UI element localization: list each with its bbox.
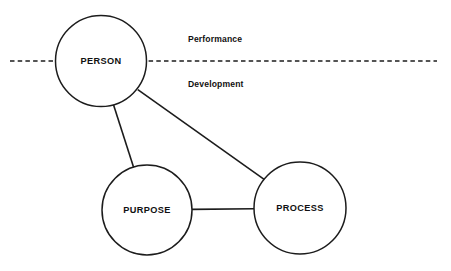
node-purpose-label: PURPOSE xyxy=(123,205,170,215)
zone-label-development: Development xyxy=(188,79,244,89)
diagram-canvas: PERSON PURPOSE PROCESS Performance Devel… xyxy=(0,0,451,271)
diagram-svg: PERSON PURPOSE PROCESS Performance Devel… xyxy=(0,0,451,271)
edge-person-purpose xyxy=(114,105,134,167)
node-process-label: PROCESS xyxy=(276,203,323,213)
edge-purpose-process xyxy=(192,209,254,210)
node-person-label: PERSON xyxy=(81,56,122,66)
zone-label-performance: Performance xyxy=(188,34,242,44)
